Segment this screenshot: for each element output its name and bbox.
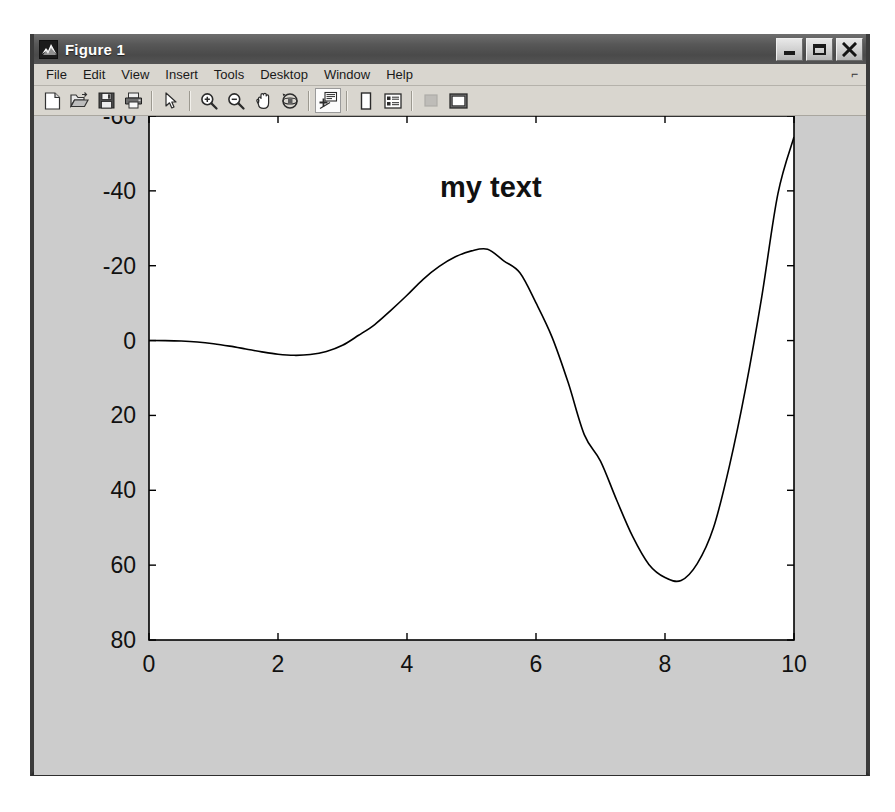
- menu-overflow-marker[interactable]: ⌐: [851, 67, 858, 81]
- x-tick-label: 4: [401, 651, 414, 677]
- menu-item-insert[interactable]: Insert: [157, 65, 206, 84]
- zoom-in-icon[interactable]: [196, 88, 222, 113]
- y-tick-label: -60: [103, 116, 136, 129]
- close-icon: [842, 42, 857, 57]
- pan-hand-icon[interactable]: [250, 88, 276, 113]
- y-tick-label: 80: [110, 627, 136, 653]
- menu-item-help[interactable]: Help: [378, 65, 421, 84]
- y-tick-label: -20: [103, 253, 136, 279]
- y-tick-label: 20: [110, 402, 136, 428]
- hide-plot-tools-icon[interactable]: [418, 88, 444, 113]
- show-plot-tools-icon[interactable]: [445, 88, 471, 113]
- y-tick-label: 60: [110, 552, 136, 578]
- x-tick-label: 2: [272, 651, 285, 677]
- y-tick-label: -40: [103, 178, 136, 204]
- tool-bar: [34, 86, 866, 116]
- y-tick-label: 0: [123, 328, 136, 354]
- window-title: Figure 1: [65, 41, 776, 58]
- toolbar-separator: [411, 91, 413, 111]
- title-bar[interactable]: Figure 1: [34, 34, 866, 64]
- x-tick-label: 8: [659, 651, 672, 677]
- maximize-button[interactable]: [806, 38, 833, 61]
- x-tick-label: 10: [781, 651, 807, 677]
- matlab-membrane-icon: [39, 40, 58, 59]
- minimize-icon: [784, 51, 795, 55]
- minimize-button[interactable]: [776, 38, 803, 61]
- axes-plot[interactable]: -60-40-200204060800246810: [34, 116, 866, 775]
- toolbar-separator: [308, 91, 310, 111]
- menu-bar: File Edit View Insert Tools Desktop Wind…: [34, 64, 866, 86]
- data-cursor-icon[interactable]: [315, 88, 341, 113]
- x-tick-label: 0: [143, 651, 156, 677]
- plot-annotation-text[interactable]: my text: [440, 171, 542, 204]
- toolbar-separator: [151, 91, 153, 111]
- zoom-out-icon[interactable]: [223, 88, 249, 113]
- close-button[interactable]: [836, 38, 863, 61]
- open-file-icon[interactable]: [66, 88, 92, 113]
- toolbar-separator: [189, 91, 191, 111]
- window-controls: [776, 38, 863, 61]
- figure-canvas[interactable]: -60-40-200204060800246810 my text: [34, 116, 866, 775]
- menu-item-edit[interactable]: Edit: [75, 65, 113, 84]
- menu-item-file[interactable]: File: [38, 65, 75, 84]
- insert-colorbar-icon[interactable]: [353, 88, 379, 113]
- toolbar-separator: [346, 91, 348, 111]
- x-tick-label: 6: [530, 651, 543, 677]
- maximize-icon: [813, 44, 826, 55]
- edit-plot-pointer-icon[interactable]: [158, 88, 184, 113]
- menu-item-view[interactable]: View: [113, 65, 157, 84]
- menu-item-desktop[interactable]: Desktop: [252, 65, 316, 84]
- new-figure-icon[interactable]: [39, 88, 65, 113]
- y-tick-label: 40: [110, 477, 136, 503]
- save-figure-icon[interactable]: [93, 88, 119, 113]
- insert-legend-icon[interactable]: [380, 88, 406, 113]
- menu-item-tools[interactable]: Tools: [206, 65, 252, 84]
- page-root: Figure 1 File Edit: [0, 0, 895, 812]
- print-figure-icon[interactable]: [120, 88, 146, 113]
- matlab-figure-window: Figure 1 File Edit: [30, 34, 870, 776]
- menu-item-window[interactable]: Window: [316, 65, 378, 84]
- rotate-3d-icon[interactable]: [277, 88, 303, 113]
